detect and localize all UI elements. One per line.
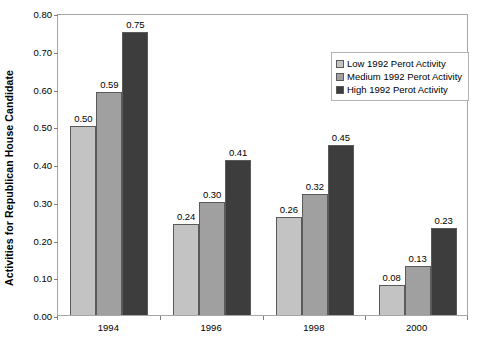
legend-label: Low 1992 Perot Activity — [347, 58, 446, 69]
y-axis-tick-label: 0.40 — [22, 160, 52, 171]
legend-swatch-icon — [336, 73, 344, 81]
bar-group: 0.240.300.41 — [161, 15, 264, 315]
legend-label: Medium 1992 Perot Activity — [347, 71, 462, 82]
legend-swatch-icon — [336, 60, 344, 68]
y-axis-tick-label: 0.00 — [22, 311, 52, 322]
x-axis-tick-labels: 1994199619982000 — [57, 322, 468, 342]
legend-swatch-icon — [336, 86, 344, 94]
bar-value-label: 0.41 — [229, 147, 248, 158]
bar-value-label: 0.32 — [306, 181, 325, 192]
x-axis-tick-mark — [263, 316, 264, 320]
y-axis-tick-label: 0.50 — [22, 122, 52, 133]
bar-value-label: 0.45 — [332, 132, 351, 143]
bar[interactable] — [276, 217, 302, 315]
y-axis-tick-label: 0.20 — [22, 235, 52, 246]
bar-value-label: 0.50 — [74, 113, 93, 124]
y-axis-tick-label: 0.80 — [22, 9, 52, 20]
x-axis-tick-label: 1994 — [98, 322, 119, 333]
bar-column[interactable]: 0.50 — [70, 15, 96, 315]
bar[interactable] — [225, 160, 251, 315]
bar[interactable] — [431, 228, 457, 315]
bar-chart: Activities for Republican House Candidat… — [0, 0, 495, 356]
x-axis-tick-label: 1996 — [201, 322, 222, 333]
bar-column[interactable]: 0.32 — [302, 15, 328, 315]
bar-value-label: 0.59 — [100, 79, 119, 90]
bar[interactable] — [96, 92, 122, 315]
bar-column[interactable]: 0.30 — [199, 15, 225, 315]
legend-item[interactable]: Low 1992 Perot Activity — [336, 57, 462, 70]
y-axis-tick-labels: 0.800.700.600.500.400.300.200.100.00 — [20, 0, 52, 356]
y-axis-tick-label: 0.10 — [22, 273, 52, 284]
legend-item[interactable]: High 1992 Perot Activity — [336, 83, 462, 96]
bar[interactable] — [379, 285, 405, 315]
bar[interactable] — [122, 32, 148, 315]
x-axis-tick-mark — [365, 316, 366, 320]
chart-legend: Low 1992 Perot ActivityMedium 1992 Perot… — [331, 52, 469, 101]
bar-column[interactable]: 0.26 — [276, 15, 302, 315]
x-axis-tick-label: 1998 — [303, 322, 324, 333]
legend-label: High 1992 Perot Activity — [347, 84, 448, 95]
x-axis-tick-marks — [57, 316, 468, 321]
bar-column[interactable]: 0.41 — [225, 15, 251, 315]
y-axis-tick-label: 0.60 — [22, 84, 52, 95]
bar-value-label: 0.26 — [280, 204, 299, 215]
bar-column[interactable]: 0.24 — [173, 15, 199, 315]
bar-value-label: 0.13 — [408, 253, 427, 264]
bar-column[interactable]: 0.75 — [122, 15, 148, 315]
bar[interactable] — [405, 266, 431, 315]
bar-group: 0.500.590.75 — [58, 15, 161, 315]
bar-value-label: 0.23 — [434, 215, 453, 226]
bar-column[interactable]: 0.59 — [96, 15, 122, 315]
y-axis-tick-label: 0.70 — [22, 46, 52, 57]
bar[interactable] — [302, 194, 328, 315]
bar-value-label: 0.30 — [203, 189, 222, 200]
bar-value-label: 0.24 — [177, 211, 196, 222]
x-axis-tick-mark — [467, 316, 468, 320]
bar[interactable] — [70, 126, 96, 315]
bar[interactable] — [328, 145, 354, 315]
y-axis-tick-label: 0.30 — [22, 197, 52, 208]
y-axis-title: Activities for Republican House Candidat… — [0, 0, 18, 356]
bar[interactable] — [199, 202, 225, 315]
bar-value-label: 0.75 — [126, 19, 145, 30]
x-axis-tick-mark — [57, 316, 58, 320]
bar-value-label: 0.08 — [382, 272, 401, 283]
bar[interactable] — [173, 224, 199, 315]
legend-item[interactable]: Medium 1992 Perot Activity — [336, 70, 462, 83]
x-axis-tick-mark — [160, 316, 161, 320]
x-axis-tick-label: 2000 — [406, 322, 427, 333]
